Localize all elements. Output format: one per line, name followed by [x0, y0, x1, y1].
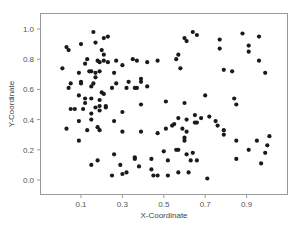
- data-point: [247, 44, 251, 48]
- x-axis-title: X-Coordinate: [140, 211, 188, 220]
- data-point: [67, 86, 71, 90]
- data-point: [93, 71, 97, 75]
- plot-frame: [41, 14, 288, 195]
- data-point: [222, 68, 226, 72]
- data-point: [98, 104, 102, 108]
- data-point: [89, 118, 93, 122]
- data-point: [149, 157, 153, 161]
- scatter-chart: 0.00.20.40.60.81.0 0.10.30.50.70.9 X-Coo…: [0, 0, 304, 229]
- data-point: [85, 57, 89, 61]
- data-point: [102, 92, 106, 96]
- data-point: [240, 31, 244, 35]
- data-point: [124, 170, 128, 174]
- data-point: [98, 128, 102, 132]
- data-point: [191, 30, 195, 34]
- y-tick-label: 0.6: [23, 85, 35, 94]
- data-point: [110, 173, 114, 177]
- data-point: [79, 42, 83, 46]
- data-point: [120, 130, 124, 134]
- data-point: [135, 59, 139, 63]
- data-point: [166, 158, 170, 162]
- data-point: [189, 158, 193, 162]
- x-axis: 0.10.30.50.70.9: [75, 195, 252, 210]
- y-tick-label: 0.0: [23, 176, 35, 185]
- data-point: [265, 143, 269, 147]
- data-point: [102, 36, 106, 40]
- data-point: [257, 35, 261, 39]
- data-point: [156, 131, 160, 135]
- data-point: [222, 133, 226, 137]
- data-point: [106, 60, 110, 64]
- data-point: [96, 158, 100, 162]
- data-point: [98, 98, 102, 102]
- data-point: [247, 148, 251, 152]
- data-point: [218, 47, 222, 51]
- data-point: [77, 119, 81, 123]
- data-point: [162, 149, 166, 153]
- data-point: [85, 128, 89, 132]
- data-point: [114, 59, 118, 63]
- data-point: [102, 59, 106, 63]
- data-point: [203, 93, 207, 97]
- data-point: [137, 164, 141, 168]
- data-point: [83, 101, 87, 105]
- data-point: [89, 84, 93, 88]
- data-point: [91, 30, 95, 34]
- data-point: [176, 170, 180, 174]
- data-point: [216, 124, 220, 128]
- y-tick-label: 0.4: [23, 116, 35, 125]
- data-point: [199, 116, 203, 120]
- x-tick-label: 0.1: [75, 200, 87, 209]
- data-point: [207, 115, 211, 119]
- data-point: [151, 173, 155, 177]
- data-point: [114, 81, 118, 85]
- data-points: [60, 30, 271, 181]
- data-point: [263, 71, 267, 75]
- data-point: [112, 71, 116, 75]
- data-point: [185, 39, 189, 43]
- x-tick-label: 0.5: [158, 200, 170, 209]
- data-point: [257, 59, 261, 63]
- data-point: [77, 71, 81, 75]
- data-point: [176, 116, 180, 120]
- data-point: [218, 38, 222, 42]
- data-point: [110, 86, 114, 90]
- y-axis: 0.00.20.40.60.81.0: [23, 25, 41, 185]
- y-tick-label: 0.2: [23, 146, 35, 155]
- data-point: [120, 63, 124, 67]
- data-point: [195, 158, 199, 162]
- data-point: [156, 173, 160, 177]
- data-point: [69, 81, 73, 85]
- data-point: [135, 86, 139, 90]
- data-point: [176, 53, 180, 57]
- data-point: [164, 99, 168, 103]
- data-point: [176, 148, 180, 152]
- data-point: [112, 152, 116, 156]
- data-point: [64, 127, 68, 131]
- data-point: [89, 96, 93, 100]
- data-point: [69, 107, 73, 111]
- data-point: [263, 151, 267, 155]
- data-point: [234, 102, 238, 106]
- data-point: [267, 134, 271, 138]
- data-point: [93, 105, 97, 109]
- data-point: [259, 161, 263, 165]
- data-point: [166, 173, 170, 177]
- data-point: [139, 102, 143, 106]
- data-point: [234, 139, 238, 143]
- data-point: [182, 139, 186, 143]
- data-point: [222, 128, 226, 132]
- data-point: [149, 167, 153, 171]
- data-point: [120, 110, 124, 114]
- data-point: [77, 93, 81, 97]
- data-point: [185, 118, 189, 122]
- data-point: [139, 77, 143, 81]
- data-point: [156, 59, 160, 63]
- data-point: [89, 69, 93, 73]
- data-point: [174, 57, 178, 61]
- data-point: [124, 86, 128, 90]
- data-point: [73, 107, 77, 111]
- y-tick-label: 1.0: [23, 25, 35, 34]
- y-axis-title: Y-Coordinate: [7, 80, 16, 127]
- data-point: [93, 75, 97, 79]
